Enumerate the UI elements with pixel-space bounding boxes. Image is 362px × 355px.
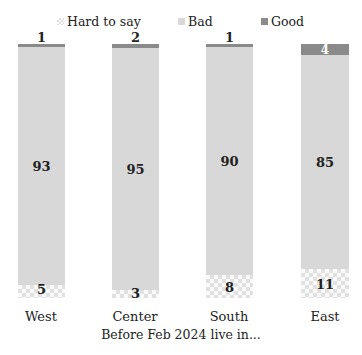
segment-hard-to-say: 8 — [206, 275, 253, 298]
segment-bad: 93 — [18, 47, 65, 285]
legend: Hard to say Bad Good — [0, 14, 362, 30]
legend-item-good: Good — [261, 14, 304, 29]
legend-label: Bad — [188, 14, 213, 29]
bar-south: 1 90 8 — [206, 44, 253, 298]
category-label-east: East — [295, 309, 355, 324]
value-label: 1 — [206, 30, 253, 45]
segment-bad: 90 — [206, 47, 253, 275]
value-label: 5 — [18, 282, 65, 297]
value-label: 95 — [112, 162, 159, 177]
segment-hard-to-say: 5 — [18, 285, 65, 298]
value-label: 3 — [112, 286, 159, 301]
value-label: 85 — [301, 155, 349, 170]
legend-item-hard-to-say: Hard to say — [57, 14, 141, 29]
bar-west: 1 93 5 — [18, 44, 65, 298]
value-label: 2 — [112, 30, 159, 45]
value-label: 1 — [18, 30, 65, 45]
legend-swatch-bad-icon — [178, 18, 185, 25]
bar-center: 2 95 3 — [112, 44, 159, 298]
legend-swatch-hard-icon — [57, 18, 64, 25]
category-label-center: Center — [105, 309, 165, 324]
bar-east: 4 85 11 — [301, 44, 349, 298]
value-label: 11 — [301, 276, 349, 291]
category-label-south: South — [199, 309, 259, 324]
legend-label: Good — [271, 14, 304, 29]
legend-swatch-good-icon — [261, 18, 268, 25]
value-label: 90 — [206, 154, 253, 169]
segment-good: 4 — [301, 44, 349, 55]
legend-label: Hard to say — [67, 14, 141, 29]
value-label: 8 — [206, 279, 253, 294]
legend-item-bad: Bad — [178, 14, 213, 29]
segment-hard-to-say: 11 — [301, 269, 349, 298]
segment-hard-to-say: 3 — [112, 290, 159, 298]
segment-bad: 95 — [112, 48, 159, 290]
value-label: 93 — [18, 159, 65, 174]
category-label-west: West — [11, 309, 71, 324]
x-axis-label: Before Feb 2024 live in... — [0, 327, 362, 342]
segment-bad: 85 — [301, 55, 349, 269]
